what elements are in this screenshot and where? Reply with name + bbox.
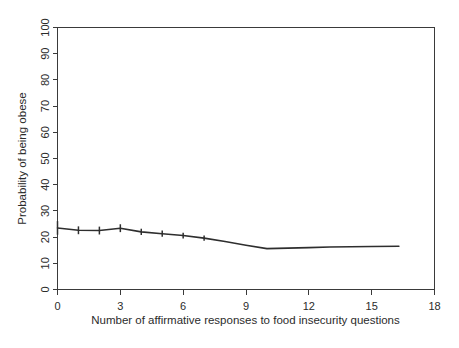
x-tick-label: 15 <box>366 300 378 312</box>
y-tick-label: 10 <box>39 257 51 269</box>
chart-figure: 0102030405060708090100 0369121518 Number… <box>0 0 459 348</box>
data-series-group <box>58 228 399 249</box>
y-tick-label: 50 <box>39 152 51 164</box>
x-axis: 0369121518 <box>54 290 440 313</box>
y-tick-label: 0 <box>39 286 51 292</box>
y-axis-title: Probability of being obese <box>16 92 28 224</box>
y-tick-label: 40 <box>39 179 51 191</box>
x-tick-label: 3 <box>117 300 123 312</box>
chart-plot-area: 0102030405060708090100 0369121518 Number… <box>0 0 459 348</box>
y-tick-label: 20 <box>39 231 51 243</box>
x-tick-label: 18 <box>428 300 440 312</box>
data-line <box>58 228 399 249</box>
y-tick-label: 90 <box>39 48 51 60</box>
plot-box-frame <box>58 28 435 290</box>
x-tick-label: 9 <box>243 300 249 312</box>
x-tick-label: 0 <box>54 300 60 312</box>
y-axis: 0102030405060708090100 <box>39 18 57 292</box>
x-tick-label: 6 <box>180 300 186 312</box>
y-tick-label: 70 <box>39 100 51 112</box>
x-axis-title: Number of affirmative responses to food … <box>91 314 400 326</box>
y-tick-label: 80 <box>39 74 51 86</box>
y-tick-label: 100 <box>39 18 51 36</box>
y-tick-label: 60 <box>39 126 51 138</box>
x-tick-label: 12 <box>303 300 315 312</box>
y-tick-label: 30 <box>39 205 51 217</box>
